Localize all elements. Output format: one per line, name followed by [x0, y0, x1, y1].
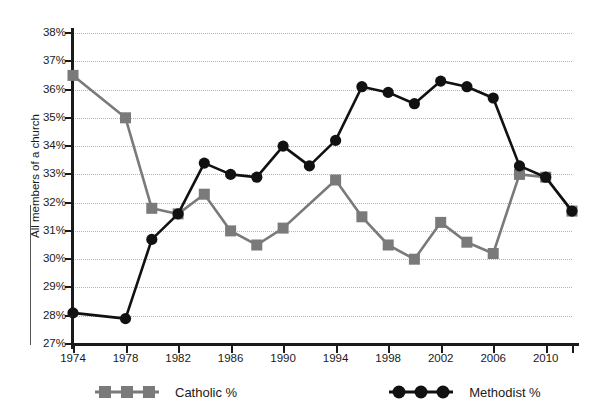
- x-axis-label: 1978: [104, 352, 148, 364]
- data-point-marker: [383, 87, 394, 98]
- data-point-marker: [68, 70, 79, 81]
- x-axis-label: 1994: [314, 352, 358, 364]
- data-point-marker: [173, 208, 184, 219]
- data-point-marker: [356, 81, 367, 92]
- y-axis-label: 35%: [20, 112, 66, 124]
- legend-label-catholic: Catholic %: [175, 386, 237, 399]
- x-axis-label: 2010: [524, 352, 568, 364]
- y-axis-tick: [65, 89, 73, 91]
- y-axis-tick: [65, 230, 73, 232]
- data-point-marker: [120, 313, 131, 324]
- data-point-marker: [461, 81, 472, 92]
- y-axis-tick: [65, 343, 73, 345]
- data-point-marker: [409, 254, 420, 265]
- data-point-marker: [488, 248, 499, 259]
- x-axis-label: 1986: [209, 352, 253, 364]
- y-axis-tick: [65, 117, 73, 119]
- data-point-marker: [199, 189, 210, 200]
- chart-legend: Catholic % Methodist %: [13, 378, 579, 406]
- data-point-marker: [146, 203, 157, 214]
- data-point-marker: [330, 175, 341, 186]
- data-point-marker: [146, 234, 157, 245]
- y-axis-tick: [65, 145, 73, 147]
- x-axis-label: 2002: [419, 352, 463, 364]
- y-axis-tick: [65, 173, 73, 175]
- y-axis-tick: [65, 60, 73, 62]
- data-point-marker: [566, 206, 577, 217]
- y-axis-tick: [65, 315, 73, 317]
- data-point-marker: [488, 92, 499, 103]
- data-point-marker: [409, 98, 420, 109]
- x-axis-label: 2006: [471, 352, 515, 364]
- data-point-marker: [330, 135, 341, 146]
- data-point-marker: [199, 158, 210, 169]
- data-point-marker: [251, 240, 262, 251]
- y-axis-label: 38%: [20, 27, 66, 39]
- data-point-marker: [225, 225, 236, 236]
- y-axis-label: 37%: [20, 55, 66, 67]
- y-axis-label: 29%: [20, 281, 66, 293]
- y-axis-label: 31%: [20, 225, 66, 237]
- data-point-marker: [278, 141, 289, 152]
- data-point-marker: [383, 240, 394, 251]
- y-axis-tick: [65, 258, 73, 260]
- y-axis-label: 32%: [20, 197, 66, 209]
- y-axis-label: 34%: [20, 140, 66, 152]
- chart-container: All members of a church Catholic % Metho…: [0, 0, 590, 414]
- series-line-square: [73, 75, 572, 259]
- y-axis-tick: [65, 32, 73, 34]
- data-point-marker: [251, 172, 262, 183]
- legend-item-methodist[interactable]: Methodist %: [387, 384, 541, 400]
- methodist-series-icon: [387, 384, 455, 400]
- y-axis-label: 30%: [20, 253, 66, 265]
- data-point-marker: [225, 169, 236, 180]
- y-axis-label: 27%: [20, 338, 66, 350]
- y-axis-tick: [65, 202, 73, 204]
- data-point-marker: [435, 76, 446, 87]
- x-axis-label: 1998: [366, 352, 410, 364]
- data-point-marker: [540, 172, 551, 183]
- data-point-marker: [67, 307, 78, 318]
- data-point-marker: [461, 237, 472, 248]
- legend-divider: [0, 2, 566, 3]
- data-point-marker: [278, 223, 289, 234]
- data-point-marker: [435, 217, 446, 228]
- y-axis-label: 33%: [20, 168, 66, 180]
- legend-item-catholic[interactable]: Catholic %: [93, 384, 237, 400]
- catholic-series-icon: [93, 384, 161, 400]
- x-axis-label: 1982: [156, 352, 200, 364]
- x-axis-label: 1990: [261, 352, 305, 364]
- y-axis-label: 36%: [20, 84, 66, 96]
- data-point-marker: [514, 160, 525, 171]
- legend-label-methodist: Methodist %: [469, 386, 541, 399]
- x-axis-label: 1974: [51, 352, 95, 364]
- x-axis-tick: [572, 346, 574, 353]
- y-axis-label: 28%: [20, 310, 66, 322]
- series-line-circle: [73, 81, 572, 319]
- y-axis-tick: [65, 286, 73, 288]
- data-point-marker: [120, 112, 131, 123]
- series-layer: [73, 33, 572, 344]
- data-point-marker: [356, 211, 367, 222]
- data-point-marker: [304, 160, 315, 171]
